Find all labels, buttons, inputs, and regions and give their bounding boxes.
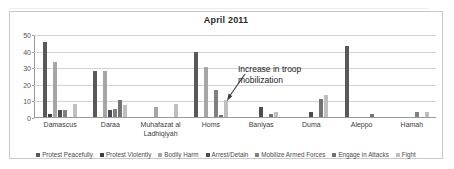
legend-swatch-icon bbox=[396, 153, 400, 157]
y-axis-tick-label: 0 bbox=[27, 115, 31, 122]
legend-swatch-icon bbox=[100, 153, 104, 157]
x-axis-label: Damascus bbox=[35, 120, 85, 129]
bar bbox=[415, 112, 419, 117]
bar bbox=[214, 90, 218, 117]
legend-swatch-icon bbox=[332, 153, 336, 157]
bar bbox=[194, 52, 198, 117]
bar bbox=[319, 99, 323, 117]
bar bbox=[113, 109, 117, 117]
y-axis-tick-label: 10 bbox=[23, 98, 31, 105]
x-axis-label: Aleppo bbox=[337, 120, 387, 129]
bar bbox=[204, 67, 208, 117]
annotation-text: Increase in troop mobilization bbox=[238, 64, 350, 86]
y-axis-tick-mark bbox=[32, 52, 34, 53]
legend-label: Protest Peacefully bbox=[42, 151, 93, 158]
x-axis-label: Daraa bbox=[85, 120, 135, 129]
bar bbox=[53, 62, 57, 117]
legend-swatch-icon bbox=[206, 153, 210, 157]
y-axis-tick-label: 40 bbox=[23, 48, 31, 55]
x-axis-line bbox=[34, 117, 436, 118]
legend-swatch-icon bbox=[255, 153, 259, 157]
x-axis-label: Homs bbox=[186, 120, 236, 129]
bar bbox=[219, 115, 223, 117]
legend-item[interactable]: Fight bbox=[396, 151, 416, 158]
chart-container: April 2011 01020304050 DamascusDaraaMuha… bbox=[9, 11, 443, 159]
bar bbox=[309, 112, 313, 117]
bar bbox=[425, 112, 429, 117]
y-axis-tick-mark bbox=[32, 101, 34, 102]
x-axis-label: Hamah bbox=[387, 120, 437, 129]
x-axis-label: Duma bbox=[286, 120, 336, 129]
legend-label: Fight bbox=[402, 151, 416, 158]
bar bbox=[108, 110, 112, 117]
y-axis-tick-mark bbox=[32, 35, 34, 36]
y-axis-tick-mark bbox=[32, 68, 34, 69]
bar bbox=[43, 42, 47, 117]
bar bbox=[73, 104, 77, 117]
bar bbox=[324, 95, 328, 117]
bar-group bbox=[387, 35, 437, 117]
bar bbox=[259, 107, 263, 117]
annotation-line-1: Increase in troop bbox=[238, 64, 350, 75]
chart-legend: Protest PeacefullyProtest ViolentlyBodil… bbox=[10, 151, 442, 158]
chart-title: April 2011 bbox=[10, 15, 442, 25]
legend-label: Engage in Attacks bbox=[338, 151, 388, 158]
annotation-line-2: mobilization bbox=[238, 75, 350, 86]
legend-item[interactable]: Mobilize Armed Forces bbox=[255, 151, 325, 158]
bar bbox=[370, 114, 374, 117]
legend-swatch-icon bbox=[158, 153, 162, 157]
bar-group bbox=[35, 35, 85, 117]
bar-group bbox=[85, 35, 135, 117]
legend-swatch-icon bbox=[36, 153, 40, 157]
legend-item[interactable]: Protest Peacefully bbox=[36, 151, 93, 158]
bar bbox=[123, 105, 127, 117]
y-axis-tick-label: 50 bbox=[23, 32, 31, 39]
bar bbox=[118, 100, 122, 117]
legend-label: Arrest/Detain bbox=[212, 151, 249, 158]
legend-item[interactable]: Protest Violently bbox=[100, 151, 151, 158]
bar-series-layer bbox=[35, 35, 436, 117]
bar bbox=[174, 104, 178, 117]
bar bbox=[154, 107, 158, 117]
legend-label: Protest Violently bbox=[106, 151, 151, 158]
legend-item[interactable]: Arrest/Detain bbox=[206, 151, 249, 158]
x-axis-label: Baniyas bbox=[236, 120, 286, 129]
plot-area: 01020304050 bbox=[34, 35, 436, 118]
bar bbox=[103, 71, 107, 117]
x-axis-label: Muhafazat al Ladhiqiyah bbox=[136, 120, 186, 138]
legend-label: Mobilize Armed Forces bbox=[261, 151, 325, 158]
y-axis-tick-label: 20 bbox=[23, 81, 31, 88]
legend-item[interactable]: Bodily Harm bbox=[158, 151, 198, 158]
scan-edge-artifact bbox=[9, 8, 429, 9]
legend-item[interactable]: Engage in Attacks bbox=[332, 151, 388, 158]
bar bbox=[274, 112, 278, 117]
y-axis-tick-mark bbox=[32, 118, 34, 119]
bar bbox=[48, 114, 52, 117]
bar bbox=[63, 110, 67, 117]
bar-group bbox=[186, 35, 236, 117]
bar bbox=[58, 110, 62, 117]
x-axis-category-labels: DamascusDaraaMuhafazat al LadhiqiyahHoms… bbox=[35, 120, 437, 146]
legend-label: Bodily Harm bbox=[164, 151, 198, 158]
bar-group bbox=[136, 35, 186, 117]
y-axis-tick-mark bbox=[32, 85, 34, 86]
y-axis-tick-label: 30 bbox=[23, 65, 31, 72]
bar bbox=[93, 71, 97, 117]
bar bbox=[269, 114, 273, 117]
bar bbox=[224, 100, 228, 117]
